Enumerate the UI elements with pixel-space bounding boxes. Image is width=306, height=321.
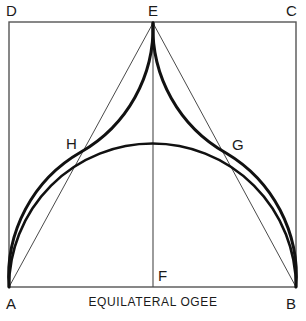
- chord-a-e-line: [9, 23, 153, 287]
- vertex-label-g: G: [232, 137, 244, 152]
- chord-b-e-line: [153, 23, 296, 287]
- vertex-label-e: E: [148, 3, 158, 18]
- vertex-label-c: C: [286, 3, 297, 18]
- vertex-label-d: D: [6, 3, 17, 18]
- figure-caption: EQUILATERAL OGEE: [0, 296, 306, 308]
- ogee-diagram: [0, 0, 306, 321]
- figure-container: D E C H G F A B EQUILATERAL OGEE: [0, 0, 306, 321]
- vertex-label-f: F: [158, 268, 167, 283]
- vertex-label-h: H: [66, 136, 77, 151]
